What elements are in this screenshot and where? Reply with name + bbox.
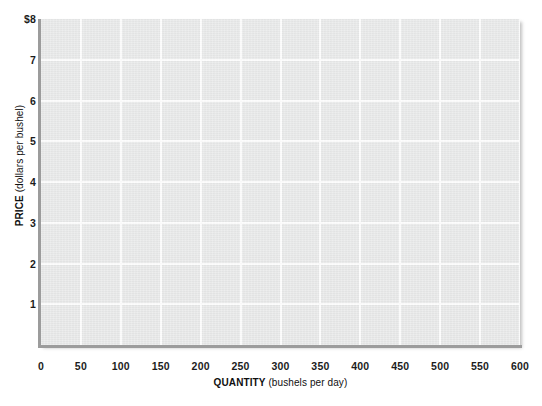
gridline-horizontal (41, 181, 520, 183)
gridline-horizontal (41, 303, 520, 305)
gridline-horizontal (41, 100, 520, 102)
gridline-horizontal (41, 59, 520, 61)
y-axis-title-unit: (dollars per bushel) (14, 105, 25, 193)
y-tick-label: $8 (2, 14, 36, 25)
x-tick-label: 100 (101, 360, 141, 372)
plot-area (41, 19, 520, 345)
x-tick-label: 150 (141, 360, 181, 372)
x-axis-title-unit: (bushels per day) (268, 377, 347, 388)
gridline-horizontal (41, 263, 520, 265)
x-tick-label: 200 (181, 360, 221, 372)
x-tick-label: 500 (420, 360, 460, 372)
x-tick-label: 400 (340, 360, 380, 372)
x-tick-label: 600 (500, 360, 540, 372)
x-axis-title-bold: QUANTITY (214, 377, 266, 388)
x-axis-line (38, 345, 522, 348)
y-axis-title-bold: PRICE (14, 195, 25, 226)
y-axis-title: PRICE (dollars per bushel) (14, 61, 25, 271)
x-axis-title: QUANTITY (bushels per day) (41, 377, 520, 388)
x-tick-label: 0 (21, 360, 61, 372)
x-tick-label: 300 (261, 360, 301, 372)
gridline-horizontal (41, 222, 520, 224)
y-axis-line (38, 19, 41, 346)
price-quantity-blank-grid-chart: 1234567$8 050100150200250300350400450500… (0, 0, 542, 406)
gridline-horizontal (41, 140, 520, 142)
x-tick-label: 50 (61, 360, 101, 372)
x-tick-label: 350 (300, 360, 340, 372)
x-tick-label: 450 (380, 360, 420, 372)
y-tick-label: 1 (2, 299, 36, 310)
x-axis-tick-labels: 050100150200250300350400450500550600 (0, 360, 542, 374)
x-tick-label: 250 (221, 360, 261, 372)
x-tick-label: 550 (460, 360, 500, 372)
